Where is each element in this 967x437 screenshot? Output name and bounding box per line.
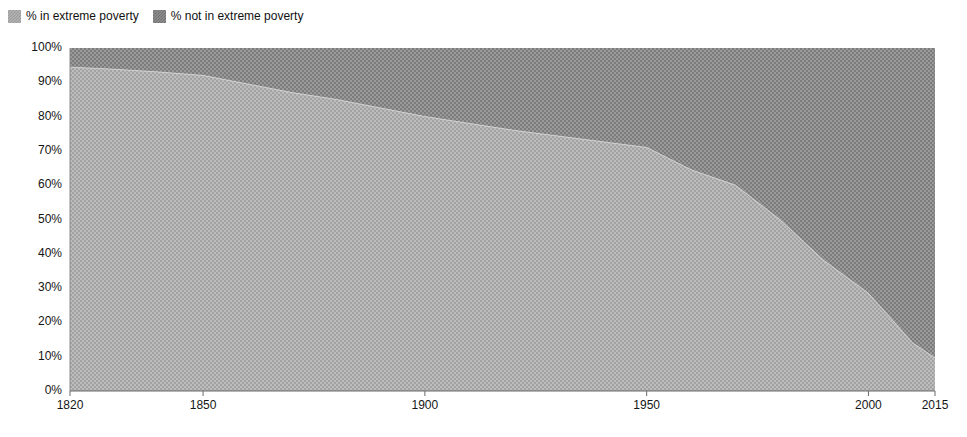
x-axis-tick-label: 2000: [838, 399, 898, 412]
x-axis-tick-label: 1820: [40, 399, 100, 412]
x-axis-tick-marks: [70, 391, 935, 396]
y-axis-tick-label: 90%: [6, 75, 62, 88]
plot-svg: [0, 0, 967, 437]
y-axis-tick-label: 70%: [6, 144, 62, 157]
y-axis-tick-label: 0%: [6, 384, 62, 397]
poverty-area-chart: % in extreme poverty % not in extreme po…: [0, 0, 967, 437]
x-axis-tick-label: 1900: [395, 399, 455, 412]
y-axis-tick-label: 100%: [6, 41, 62, 54]
y-axis-tick-label: 10%: [6, 350, 62, 363]
x-axis-tick-label: 2015: [905, 399, 965, 412]
y-axis-tick-label: 80%: [6, 110, 62, 123]
x-axis-tick-label: 1950: [617, 399, 677, 412]
y-axis-tick-label: 60%: [6, 178, 62, 191]
y-axis-tick-label: 20%: [6, 315, 62, 328]
x-axis-tick-label: 1850: [173, 399, 233, 412]
y-axis-tick-label: 50%: [6, 213, 62, 226]
plot-area: 0%10%20%30%40%50%60%70%80%90%100% 182018…: [0, 0, 967, 437]
y-axis-tick-label: 30%: [6, 281, 62, 294]
y-axis-tick-label: 40%: [6, 247, 62, 260]
